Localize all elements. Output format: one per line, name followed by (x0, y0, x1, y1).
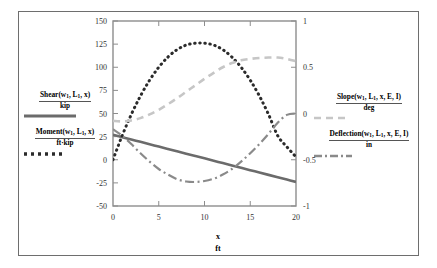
y-tick-label-left: 75 (99, 86, 107, 95)
y-tick-label-left: 0 (103, 156, 107, 165)
series-line-deflection (113, 114, 296, 182)
x-axis-units: ft (188, 244, 248, 253)
x-axis-title: x (188, 232, 248, 241)
x-tick-label: 20 (292, 213, 300, 222)
x-tick-label: 5 (157, 213, 161, 222)
y-tick-label-left: -50 (96, 202, 107, 211)
y-tick-label-left: -25 (96, 179, 107, 188)
y-tick-label-right: 0 (303, 110, 307, 119)
curves-group (113, 43, 296, 182)
y-tick-label-left: 150 (95, 17, 107, 26)
y-tick-label-right: 1 (303, 17, 307, 26)
plot-canvas: 051015201501251007550250-25-5010.50-0.5-… (0, 0, 437, 268)
x-tick-label: 0 (111, 213, 115, 222)
series-line-shear (113, 135, 296, 182)
x-tick-label: 10 (201, 213, 209, 222)
tick-labels-group: 051015201501251007550250-25-5010.50-0.5-… (95, 17, 316, 222)
y-tick-label-right: -0.5 (303, 156, 316, 165)
y-tick-label-left: 50 (99, 110, 107, 119)
y-tick-label-right: -1 (303, 202, 310, 211)
chart-window: Shear(w1, L1, x) kip Moment(w1, L1, x) f… (0, 0, 437, 268)
y-tick-label-right: 0.5 (303, 63, 313, 72)
y-tick-label-left: 25 (99, 133, 107, 142)
x-tick-label: 15 (246, 213, 254, 222)
y-tick-label-left: 125 (95, 40, 107, 49)
y-tick-label-left: 100 (95, 63, 107, 72)
